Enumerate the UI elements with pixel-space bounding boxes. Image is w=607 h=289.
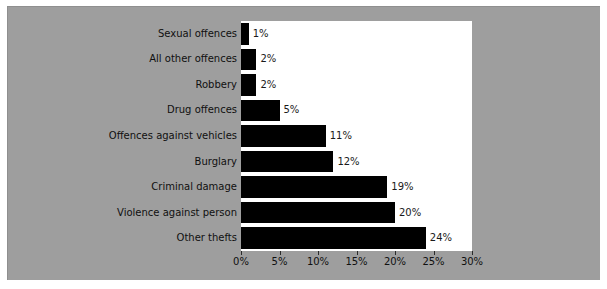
bar-row: 5% bbox=[241, 100, 532, 122]
x-axis-tick bbox=[434, 251, 435, 255]
bar bbox=[241, 176, 387, 198]
category-label: Offences against vehicles bbox=[8, 131, 241, 141]
bar bbox=[241, 74, 256, 96]
chart-figure: Sexual offencesAll other offencesRobbery… bbox=[0, 0, 607, 289]
bar-row: 20% bbox=[241, 202, 532, 224]
chart-panel: Sexual offencesAll other offencesRobbery… bbox=[7, 6, 600, 280]
bar-value-label: 2% bbox=[260, 80, 276, 90]
x-axis-tick-label: 20% bbox=[384, 257, 406, 267]
bar-value-label: 19% bbox=[391, 182, 413, 192]
category-label: Robbery bbox=[8, 80, 241, 90]
bar bbox=[241, 49, 256, 71]
category-label: All other offences bbox=[8, 54, 241, 64]
x-axis-tick-label: 10% bbox=[307, 257, 329, 267]
bar-row: 12% bbox=[241, 151, 532, 173]
x-axis-tick bbox=[318, 251, 319, 255]
bar-row: 11% bbox=[241, 125, 532, 147]
x-axis-tick bbox=[395, 251, 396, 255]
bar bbox=[241, 100, 280, 122]
bar-value-label: 11% bbox=[330, 131, 352, 141]
bar-value-label: 2% bbox=[260, 54, 276, 64]
category-label: Sexual offences bbox=[8, 29, 241, 39]
category-label: Criminal damage bbox=[8, 182, 241, 192]
x-axis-tick-label: 0% bbox=[233, 257, 249, 267]
category-label: Other thefts bbox=[8, 233, 241, 243]
bar bbox=[241, 227, 426, 249]
x-axis-tick bbox=[280, 251, 281, 255]
bar bbox=[241, 151, 333, 173]
bar bbox=[241, 202, 395, 224]
bar-row: 2% bbox=[241, 49, 532, 71]
x-axis-tick-label: 5% bbox=[272, 257, 288, 267]
bar bbox=[241, 23, 249, 45]
x-axis-tick-label: 25% bbox=[422, 257, 444, 267]
bar-row: 19% bbox=[241, 176, 532, 198]
bar-row: 24% bbox=[241, 227, 532, 249]
bar-value-label: 24% bbox=[430, 233, 452, 243]
x-axis-tick bbox=[357, 251, 358, 255]
bar-value-label: 20% bbox=[399, 208, 421, 218]
category-label: Burglary bbox=[8, 157, 241, 167]
x-axis-tick-label: 15% bbox=[345, 257, 367, 267]
bar-row: 2% bbox=[241, 74, 532, 96]
x-axis-tick-label: 30% bbox=[461, 257, 483, 267]
bar-value-label: 5% bbox=[284, 105, 300, 115]
bar-row: 1% bbox=[241, 23, 532, 45]
category-label: Violence against person bbox=[8, 208, 241, 218]
x-axis-tick bbox=[472, 251, 473, 255]
bar-value-label: 1% bbox=[253, 29, 269, 39]
bar-value-label: 12% bbox=[337, 157, 359, 167]
bar bbox=[241, 125, 326, 147]
x-axis: 0%5%10%15%20%25%30% bbox=[241, 251, 472, 277]
category-label: Drug offences bbox=[8, 105, 241, 115]
x-axis-tick bbox=[241, 251, 242, 255]
